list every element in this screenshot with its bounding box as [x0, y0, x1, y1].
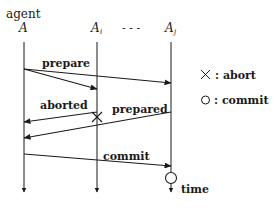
message-prepare-label: prepare	[42, 57, 90, 70]
participant-ai-label: A i	[90, 21, 102, 36]
commit-marker-icon	[166, 173, 177, 184]
sequence-diagram: agent A A i - - - A j prepare aborted pr…	[0, 0, 274, 208]
message-prepared-label: prepared	[112, 103, 168, 116]
participant-a-label: A	[18, 21, 28, 35]
participant-agent-label: agent	[6, 7, 41, 21]
time-axis-label: time	[181, 183, 209, 196]
legend: : abort : commit	[201, 69, 269, 107]
legend-abort-label: : abort	[215, 69, 257, 82]
legend-commit-label: : commit	[214, 94, 269, 107]
message-aborted-label: aborted	[40, 99, 88, 112]
svg-text:i: i	[100, 28, 102, 36]
svg-text:A: A	[164, 21, 174, 35]
legend-abort-icon	[201, 70, 210, 79]
participant-aj-label: A j	[164, 21, 177, 36]
svg-text:A: A	[90, 21, 100, 35]
legend-commit-icon	[202, 96, 210, 104]
participant-ellipsis: - - -	[122, 22, 140, 35]
message-aborted	[24, 112, 97, 122]
message-commit-label: commit	[103, 150, 150, 163]
